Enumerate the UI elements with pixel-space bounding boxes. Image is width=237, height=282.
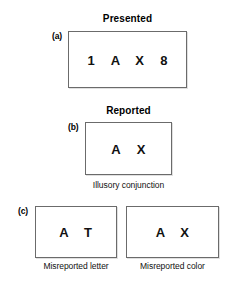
misreported-letter-row: A T (36, 226, 116, 239)
presented-section-title: Presented (68, 13, 187, 24)
stimulus-char: X (173, 226, 197, 239)
stimulus-char: X (128, 53, 152, 66)
misreported-letter-caption: Misreported letter (24, 261, 128, 271)
illusory-conjunction-caption: Illusory conjunction (60, 180, 197, 190)
panel-label-c: (c) (18, 206, 28, 216)
misreported-color-row: A X (127, 226, 218, 239)
misreported-color-caption: Misreported color (122, 261, 223, 271)
illusory-conjunction-figure: Presented (a) 1 A X 8 Reported (b) A X I… (0, 0, 237, 282)
reported-section-title: Reported (85, 105, 172, 116)
stimulus-char: 8 (152, 53, 176, 66)
stimulus-char: A (103, 53, 127, 66)
panel-label-b: (b) (68, 122, 79, 132)
stimulus-char: 1 (79, 53, 103, 66)
reported-stimulus-row: A X (86, 142, 171, 155)
presented-stimulus-row: 1 A X 8 (69, 53, 186, 66)
stimulus-char: A (52, 226, 76, 239)
misreported-color-box: A X (126, 206, 219, 258)
stimulus-char: A (149, 226, 173, 239)
panel-label-a: (a) (52, 31, 62, 41)
stimulus-char: A (104, 142, 129, 155)
stimulus-char: X (129, 142, 154, 155)
stimulus-char: T (76, 226, 100, 239)
reported-stimulus-box: A X (85, 122, 172, 175)
misreported-letter-box: A T (35, 206, 117, 258)
presented-stimulus-box: 1 A X 8 (68, 31, 187, 88)
